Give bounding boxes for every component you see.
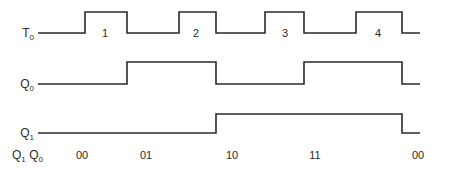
pulse-number: 3 — [282, 27, 288, 39]
pulse-number: 1 — [102, 27, 108, 39]
state-value: 10 — [226, 149, 238, 161]
waveform-t0 — [38, 12, 420, 33]
state-row: Q1 Q00001101100 — [12, 148, 424, 164]
waveform-q0 — [38, 62, 420, 84]
signal-t0: T01234 — [22, 12, 420, 42]
waveform-q1 — [38, 114, 420, 133]
pulse-number: 4 — [375, 27, 381, 39]
signal-q1: Q1 — [20, 114, 420, 142]
timing-diagram: T01234Q0Q1 Q1 Q00001101100 — [0, 0, 457, 170]
pulse-number: 2 — [193, 27, 199, 39]
signal-label: T0 — [22, 26, 34, 42]
signal-label: Q1 — [20, 126, 34, 142]
state-value: 00 — [412, 149, 424, 161]
state-value: 11 — [309, 149, 320, 161]
state-value: 00 — [76, 149, 88, 161]
state-header: Q1 Q0 — [12, 148, 43, 164]
state-value: 01 — [140, 149, 152, 161]
signal-label: Q0 — [20, 77, 34, 93]
signal-waveforms: T01234Q0Q1 — [20, 12, 420, 142]
signal-q0: Q0 — [20, 62, 420, 93]
